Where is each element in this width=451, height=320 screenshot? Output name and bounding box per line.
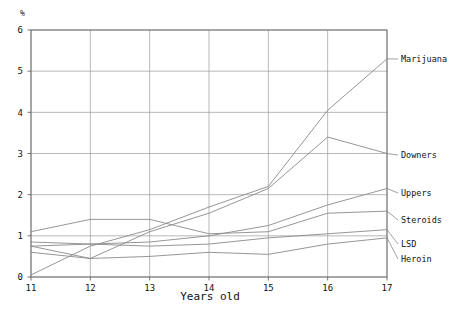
y-tick-label: 3 [18, 149, 23, 159]
x-tick-label: 16 [322, 283, 333, 293]
x-tick-label: 17 [382, 283, 393, 293]
chart-background [0, 0, 451, 320]
x-axis-title: Years old [180, 290, 240, 303]
x-tick-label: 13 [144, 283, 155, 293]
series-label-marijuana: Marijuana [401, 54, 447, 64]
y-tick-label: 1 [18, 231, 23, 241]
x-tick-label: 12 [85, 283, 96, 293]
y-tick-label: 0 [18, 272, 23, 282]
series-label-heroin: Heroin [401, 254, 432, 264]
x-tick-label: 15 [263, 283, 274, 293]
y-tick-label: 2 [18, 190, 23, 200]
x-tick-label: 11 [26, 283, 37, 293]
y-tick-label: 6 [18, 25, 23, 35]
series-label-steroids: Steroids [401, 215, 442, 225]
series-label-uppers: Uppers [401, 188, 432, 198]
line-chart: 0123456 11121314151617 MarijuanaDownersU… [0, 0, 451, 320]
series-label-downers: Downers [401, 150, 437, 160]
chart-container: 0123456 11121314151617 MarijuanaDownersU… [0, 0, 451, 320]
series-label-lsd: LSD [401, 239, 416, 249]
y-tick-label: 4 [18, 108, 23, 118]
y-tick-label: 5 [18, 66, 23, 76]
y-axis-unit-label: % [20, 9, 25, 18]
